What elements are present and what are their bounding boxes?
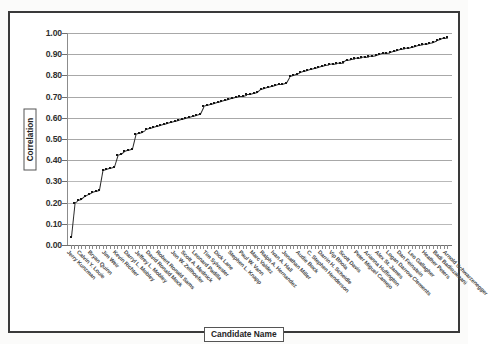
data-point xyxy=(253,92,255,94)
x-axis-title: Candidate Name xyxy=(204,327,284,342)
data-point xyxy=(80,198,82,200)
data-point xyxy=(346,59,348,61)
data-point xyxy=(195,114,197,116)
data-point xyxy=(411,46,413,48)
data-point xyxy=(249,93,251,95)
data-point xyxy=(428,42,430,44)
y-axis-tick-label: 0.20 xyxy=(14,198,62,208)
data-point xyxy=(425,43,427,45)
data-point xyxy=(289,75,291,77)
data-point xyxy=(123,150,125,152)
data-point xyxy=(192,115,194,117)
x-axis-category-labels: Jerry KunzmanCalvin Y. LouieBryan QuinnJ… xyxy=(10,249,478,315)
data-point xyxy=(210,103,212,105)
y-axis-tick-label: 0.50 xyxy=(14,134,62,144)
data-point xyxy=(443,37,445,39)
data-point xyxy=(224,99,226,101)
data-point xyxy=(314,67,316,69)
y-axis-tick-label: 0.70 xyxy=(14,92,62,102)
data-point xyxy=(378,53,380,55)
data-point xyxy=(350,58,352,60)
data-point xyxy=(220,100,222,102)
data-point xyxy=(400,48,402,50)
data-point xyxy=(310,68,312,70)
data-point xyxy=(306,69,308,71)
data-point xyxy=(77,199,79,201)
data-point xyxy=(181,118,183,120)
data-point xyxy=(238,95,240,97)
data-point xyxy=(389,51,391,53)
data-point xyxy=(328,63,330,65)
y-axis-tick-label: 0.80 xyxy=(14,70,62,80)
y-axis-tick-labels: 1.000.900.800.700.600.500.400.300.200.10… xyxy=(10,33,62,245)
data-point xyxy=(339,62,341,64)
data-point xyxy=(206,104,208,106)
data-point xyxy=(375,54,377,56)
data-point xyxy=(188,116,190,118)
data-point xyxy=(170,121,172,123)
data-point xyxy=(174,120,176,122)
data-point xyxy=(134,133,136,135)
data-point xyxy=(84,195,86,197)
data-point xyxy=(152,126,154,128)
data-point xyxy=(235,96,237,98)
data-point xyxy=(271,85,273,87)
data-point xyxy=(353,57,355,59)
data-point xyxy=(414,45,416,47)
data-point xyxy=(292,74,294,76)
data-point xyxy=(102,169,104,171)
data-point xyxy=(217,101,219,103)
data-point xyxy=(73,202,75,204)
data-point xyxy=(324,64,326,66)
data-point xyxy=(184,117,186,119)
data-point xyxy=(95,190,97,192)
data-point xyxy=(335,62,337,64)
series-segment xyxy=(99,170,104,190)
data-point xyxy=(156,125,158,127)
data-point xyxy=(321,65,323,67)
data-point xyxy=(213,102,215,104)
data-point xyxy=(367,55,369,57)
data-point xyxy=(109,167,111,169)
data-point xyxy=(231,97,233,99)
data-point xyxy=(227,98,229,100)
data-point xyxy=(163,123,165,125)
data-point xyxy=(403,47,405,49)
data-point xyxy=(116,154,118,156)
data-point xyxy=(138,132,140,134)
series-segment xyxy=(132,134,137,149)
data-point xyxy=(149,127,151,129)
data-point xyxy=(105,168,107,170)
y-axis-tick-label: 1.00 xyxy=(14,28,62,38)
data-point xyxy=(332,63,334,65)
data-point xyxy=(166,122,168,124)
data-point xyxy=(267,86,269,88)
data-point xyxy=(382,52,384,54)
data-point xyxy=(396,49,398,51)
data-point xyxy=(260,88,262,90)
y-axis-tick-label: 0.10 xyxy=(14,219,62,229)
data-point xyxy=(418,44,420,46)
data-point xyxy=(281,83,283,85)
data-point xyxy=(360,56,362,58)
y-axis-tick-label: 0.40 xyxy=(14,155,62,165)
data-point xyxy=(177,119,179,121)
data-point xyxy=(199,113,201,115)
y-axis-tick-label: 0.90 xyxy=(14,49,62,59)
data-point xyxy=(421,43,423,45)
data-point xyxy=(385,52,387,54)
data-point xyxy=(127,149,129,151)
data-point xyxy=(113,166,115,168)
data-point xyxy=(393,50,395,52)
series-segment xyxy=(71,203,76,237)
data-point xyxy=(274,84,276,86)
data-point xyxy=(120,153,122,155)
data-point xyxy=(242,95,244,97)
data-point xyxy=(278,83,280,85)
data-point xyxy=(131,148,133,150)
data-point xyxy=(446,36,448,38)
chart-outer-frame: Correlation 1.000.900.800.700.600.500.40… xyxy=(8,11,460,333)
data-point xyxy=(159,124,161,126)
data-point xyxy=(364,56,366,58)
